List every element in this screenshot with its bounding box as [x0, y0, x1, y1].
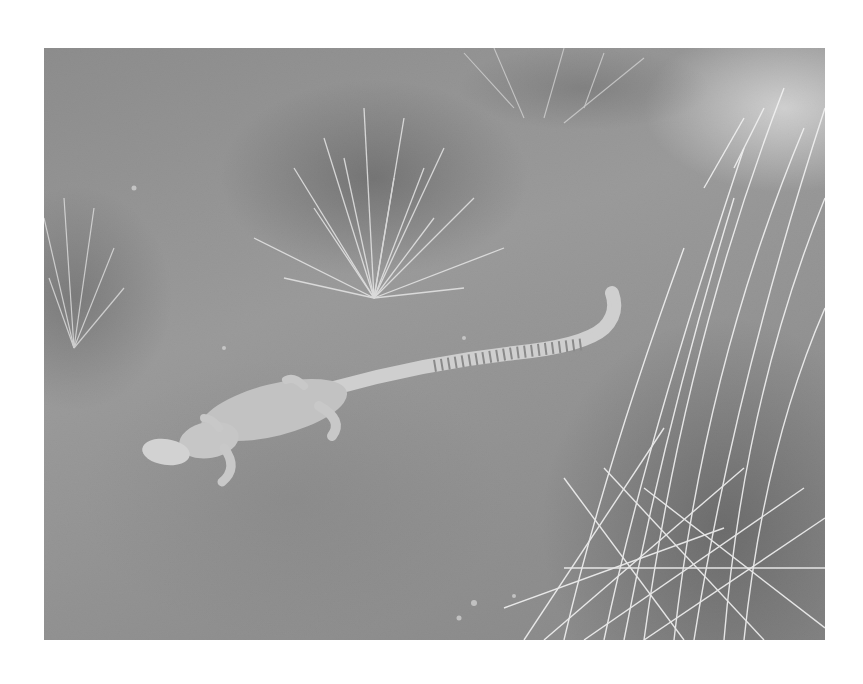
- photo-scene: [44, 48, 825, 640]
- ground-texture: [44, 48, 825, 640]
- lizard-photograph: [44, 48, 825, 640]
